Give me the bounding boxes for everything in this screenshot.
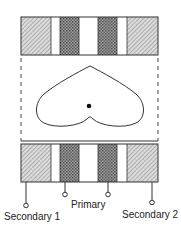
secondary-winding-right-top	[127, 17, 158, 55]
cardioid-pattern	[37, 66, 144, 126]
primary-winding-left-bottom	[60, 144, 79, 182]
terminal-primary-a	[63, 182, 68, 197]
terminal-circle-icon	[106, 192, 111, 197]
label-secondary-1: Secondary 1	[4, 212, 60, 222]
secondary-winding-left-top	[21, 17, 51, 55]
label-secondary-2: Secondary 2	[122, 210, 178, 220]
terminal-secondary-2	[150, 182, 155, 205]
secondary-winding-left-bottom	[21, 144, 51, 182]
secondary-winding-right-bottom	[127, 144, 158, 182]
terminal-circle-icon	[24, 203, 29, 208]
bottom-winding-bar	[21, 141, 158, 182]
terminal-primary-b	[106, 182, 111, 197]
primary-winding-right-top	[98, 17, 117, 55]
label-primary: Primary	[71, 200, 105, 210]
primary-winding-left-top	[60, 17, 79, 55]
terminal-circle-icon	[63, 192, 68, 197]
center-dot	[87, 104, 92, 109]
terminal-circle-icon	[150, 200, 155, 205]
primary-winding-right-bottom	[98, 144, 117, 182]
terminal-secondary-1	[24, 182, 29, 208]
top-winding-bar	[21, 17, 158, 55]
